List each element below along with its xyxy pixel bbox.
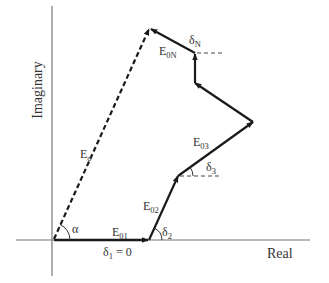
vector-e03-label: E03 xyxy=(193,135,209,151)
delta3-arc xyxy=(190,167,193,176)
vector-intermediate-a xyxy=(195,83,253,122)
vector-e0n-label: E0N xyxy=(159,44,177,60)
vector-e02-label: E02 xyxy=(143,199,159,215)
resultant-vector-e0 xyxy=(54,29,149,239)
alpha-label: α xyxy=(72,222,79,236)
resultant-label: Eo xyxy=(80,147,92,163)
delta2-arc xyxy=(154,228,162,240)
vector-e01-label: E01 xyxy=(112,225,128,241)
imaginary-axis-label: Imaginary xyxy=(30,61,45,119)
deltan-label: δN xyxy=(189,33,201,49)
reference-lines xyxy=(180,53,223,176)
delta3-label: δ3 xyxy=(206,160,216,176)
real-axis-label: Real xyxy=(267,246,293,261)
delta1-label: δ1 = 0 xyxy=(103,245,132,261)
alpha-arc xyxy=(60,224,70,240)
angle-arcs xyxy=(60,167,193,240)
phasor-diagram: Imaginary Real α Eo E xyxy=(0,0,329,283)
delta2-label: δ2 xyxy=(162,225,172,241)
